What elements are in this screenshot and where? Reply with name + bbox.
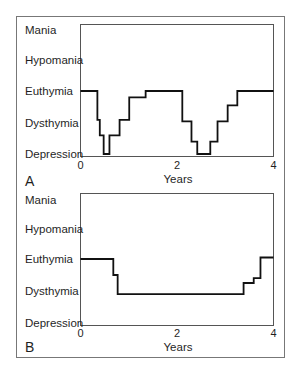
y-category-label: Euthymia [25, 85, 74, 97]
panel-label: B [25, 339, 34, 355]
x-axis-title: Years [164, 173, 193, 185]
panel-b: DepressionDysthymiaEuthymiaHypomaniaMani… [25, 194, 277, 356]
x-tick-label: 4 [270, 327, 276, 339]
panel-label: A [25, 173, 35, 189]
outer-frame [17, 17, 285, 358]
x-tick-label: 0 [77, 159, 83, 171]
y-category-label: Dysthymia [25, 117, 79, 129]
x-tick-label: 2 [174, 159, 180, 171]
y-category-label: Depression [25, 148, 83, 160]
figure: DepressionDysthymiaEuthymiaHypomaniaMani… [0, 0, 296, 374]
y-category-label: Mania [25, 24, 57, 36]
mood-step-line [81, 91, 274, 154]
y-category-label: Dysthymia [25, 285, 79, 297]
y-category-label: Hypomania [25, 223, 84, 235]
y-category-label: Mania [25, 194, 57, 206]
x-tick-label: 2 [174, 327, 180, 339]
x-axis-title: Years [164, 341, 193, 353]
x-tick-label: 4 [270, 159, 276, 171]
y-category-label: Hypomania [25, 54, 84, 66]
y-category-label: Euthymia [25, 253, 74, 265]
panel-a: DepressionDysthymiaEuthymiaHypomaniaMani… [25, 24, 277, 189]
y-category-label: Depression [25, 317, 83, 329]
mood-step-line [81, 258, 274, 295]
x-tick-label: 0 [77, 327, 83, 339]
